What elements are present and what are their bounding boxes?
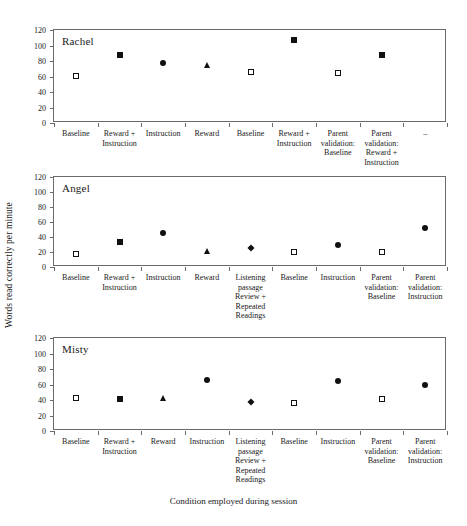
data-point-circle-filled bbox=[335, 242, 341, 248]
x-tick-mark bbox=[229, 123, 230, 127]
data-point-square-filled bbox=[117, 396, 123, 402]
y-tick-mark bbox=[50, 354, 54, 355]
y-tick-label: 40 bbox=[22, 233, 46, 242]
y-tick-label: 120 bbox=[22, 26, 46, 35]
x-tick-label: Baseline bbox=[269, 273, 319, 283]
data-point-circle-filled bbox=[335, 378, 341, 384]
x-tick-label: Baseline bbox=[269, 437, 319, 447]
panel-rachel: Rachel020406080100120BaselineReward +Ins… bbox=[53, 29, 446, 185]
data-point-square-open bbox=[291, 249, 297, 255]
y-tick-label: 60 bbox=[22, 380, 46, 389]
plot-area-angel: Angel020406080100120BaselineReward +Inst… bbox=[53, 176, 446, 266]
data-point-square-open bbox=[379, 249, 385, 255]
y-axis-label: Words read correctly per minute bbox=[4, 202, 14, 328]
y-tick-label: 60 bbox=[22, 72, 46, 81]
y-tick-mark bbox=[50, 177, 54, 178]
plot-area-misty: Misty020406080100120BaselineReward +Inst… bbox=[53, 337, 446, 430]
x-tick-label: Instruction bbox=[313, 273, 363, 283]
data-point-square-open bbox=[248, 69, 254, 75]
y-tick-mark bbox=[50, 369, 54, 370]
x-tick-mark bbox=[141, 123, 142, 127]
y-tick-mark bbox=[50, 92, 54, 93]
y-tick-mark bbox=[50, 385, 54, 386]
y-tick-mark bbox=[50, 61, 54, 62]
x-tick-mark bbox=[447, 267, 448, 271]
y-tick-mark bbox=[50, 108, 54, 109]
y-axis-label-container: Words read correctly per minute bbox=[0, 160, 18, 370]
y-tick-mark bbox=[50, 237, 54, 238]
x-tick-mark bbox=[272, 123, 273, 127]
y-tick-label: 0 bbox=[22, 263, 46, 272]
x-tick-label: Instruction bbox=[138, 129, 188, 139]
x-tick-mark bbox=[272, 267, 273, 271]
x-tick-label: Reward +Instruction bbox=[95, 437, 145, 456]
y-tick-label: 60 bbox=[22, 218, 46, 227]
data-point-square-open bbox=[335, 70, 341, 76]
x-tick-label: Reward +Instruction bbox=[269, 129, 319, 148]
data-point-circle-filled bbox=[160, 60, 166, 66]
x-tick-label: Reward bbox=[182, 129, 232, 139]
x-tick-mark bbox=[54, 431, 55, 435]
x-tick-mark bbox=[316, 123, 317, 127]
x-tick-mark bbox=[98, 123, 99, 127]
x-tick-label: Baseline bbox=[51, 437, 101, 447]
data-point-circle-filled bbox=[422, 225, 428, 231]
data-point-circle-filled bbox=[422, 382, 428, 388]
panel-title-angel: Angel bbox=[62, 182, 90, 194]
x-tick-label: Parentvalidation:Instruction bbox=[400, 273, 450, 302]
x-tick-label: Parentvalidation:Reward +Instruction bbox=[357, 129, 407, 167]
y-tick-mark bbox=[50, 222, 54, 223]
plot-area-rachel: Rachel020406080100120BaselineReward +Ins… bbox=[53, 29, 446, 122]
x-tick-mark bbox=[185, 123, 186, 127]
x-tick-mark bbox=[316, 431, 317, 435]
x-tick-label: Instruction bbox=[313, 437, 363, 447]
x-tick-mark bbox=[447, 431, 448, 435]
x-tick-label: Parentvalidation:Instruction bbox=[400, 437, 450, 466]
panel-angel: Angel020406080100120BaselineReward +Inst… bbox=[53, 176, 446, 329]
data-point-circle-filled bbox=[160, 230, 166, 236]
x-tick-label: Reward bbox=[182, 273, 232, 283]
x-tick-mark bbox=[54, 123, 55, 127]
x-tick-mark bbox=[316, 267, 317, 271]
x-tick-label: ListeningpassageReview +RepeatedReadings bbox=[226, 273, 276, 321]
x-tick-mark bbox=[360, 123, 361, 127]
x-tick-label: Baseline bbox=[226, 129, 276, 139]
y-tick-mark bbox=[50, 338, 54, 339]
x-tick-mark bbox=[403, 123, 404, 127]
data-point-square-filled bbox=[117, 52, 123, 58]
x-tick-label: Instruction bbox=[182, 437, 232, 447]
data-point-square-open bbox=[379, 396, 385, 402]
y-tick-mark bbox=[50, 207, 54, 208]
y-tick-label: 0 bbox=[22, 119, 46, 128]
panel-misty: Misty020406080100120BaselineReward +Inst… bbox=[53, 337, 446, 493]
y-tick-label: 80 bbox=[22, 203, 46, 212]
y-tick-label: 20 bbox=[22, 248, 46, 257]
x-tick-label: Baseline bbox=[51, 129, 101, 139]
y-tick-label: 40 bbox=[22, 396, 46, 405]
data-point-triangle-filled bbox=[204, 248, 210, 254]
x-tick-mark bbox=[185, 431, 186, 435]
x-tick-mark bbox=[360, 267, 361, 271]
x-tick-label: Reward bbox=[138, 437, 188, 447]
x-tick-mark bbox=[141, 267, 142, 271]
y-tick-label: 20 bbox=[22, 411, 46, 420]
x-tick-label: Reward +Instruction bbox=[95, 129, 145, 148]
x-tick-mark bbox=[229, 267, 230, 271]
x-tick-mark bbox=[141, 431, 142, 435]
data-point-square-filled bbox=[117, 239, 123, 245]
y-tick-label: 0 bbox=[22, 427, 46, 436]
y-tick-label: 40 bbox=[22, 88, 46, 97]
y-tick-mark bbox=[50, 252, 54, 253]
x-tick-mark bbox=[360, 431, 361, 435]
y-tick-mark bbox=[50, 400, 54, 401]
y-tick-label: 20 bbox=[22, 103, 46, 112]
data-point-diamond-filled bbox=[247, 399, 254, 406]
data-point-square-open bbox=[291, 400, 297, 406]
y-tick-label: 120 bbox=[22, 334, 46, 343]
y-tick-mark bbox=[50, 77, 54, 78]
x-tick-label: Instruction bbox=[138, 273, 188, 283]
data-point-square-filled bbox=[291, 37, 297, 43]
y-tick-mark bbox=[50, 416, 54, 417]
x-tick-mark bbox=[98, 267, 99, 271]
x-tick-label: Parentvalidation:Baseline bbox=[313, 129, 363, 158]
